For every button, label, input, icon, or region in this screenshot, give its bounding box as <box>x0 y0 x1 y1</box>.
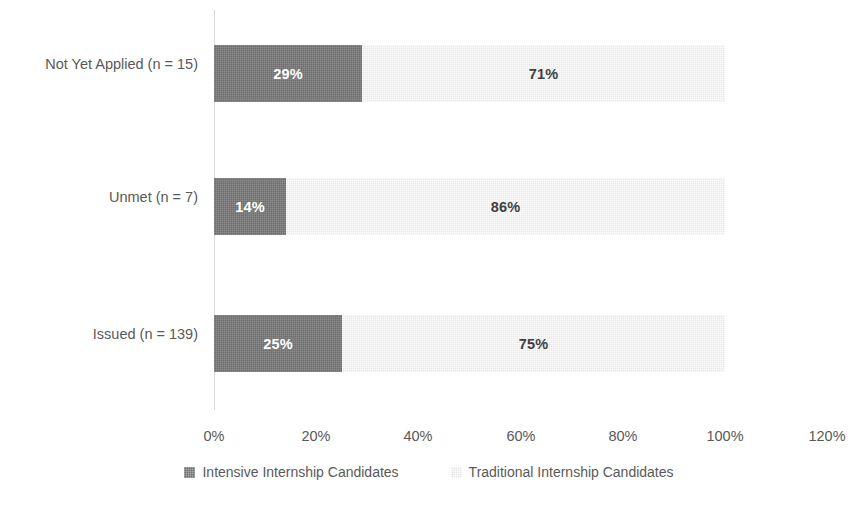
x-tick-60: 60% <box>481 428 561 444</box>
x-tick-120: 120% <box>787 428 858 444</box>
y-axis-label-issued: Issued (n = 139) <box>0 326 198 342</box>
bar-value-label-traditional: 71% <box>362 45 725 102</box>
x-tick-40: 40% <box>378 428 458 444</box>
bar-segment-traditional[interactable]: 86% <box>286 178 725 235</box>
legend-swatch-icon <box>451 467 462 478</box>
bar-segment-intensive[interactable]: 29% <box>214 45 362 102</box>
y-axis-label-unmet: Unmet (n = 7) <box>0 189 198 205</box>
stacked-bar-chart: Not Yet Applied (n = 15) Unmet (n = 7) I… <box>0 0 858 510</box>
legend-label: Intensive Internship Candidates <box>202 464 398 480</box>
x-tick-20: 20% <box>276 428 356 444</box>
bar-value-label-intensive: 25% <box>214 315 342 372</box>
y-axis-label-not-yet-applied: Not Yet Applied (n = 15) <box>0 56 198 72</box>
bar-value-label-intensive: 29% <box>214 45 362 102</box>
bar-segment-traditional[interactable]: 75% <box>342 315 725 372</box>
bar-segment-traditional[interactable]: 71% <box>362 45 725 102</box>
legend-item-traditional[interactable]: Traditional Internship Candidates <box>451 464 674 480</box>
x-tick-100: 100% <box>685 428 765 444</box>
bar-value-label-traditional: 86% <box>286 178 725 235</box>
x-tick-80: 80% <box>583 428 663 444</box>
legend-swatch-icon <box>184 467 195 478</box>
bar-value-label-traditional: 75% <box>342 315 725 372</box>
x-tick-0: 0% <box>174 428 254 444</box>
bar-value-label-intensive: 14% <box>214 178 286 235</box>
plot-area: 29% 71% 14% 86% 25% 75% 0% <box>214 10 826 410</box>
bar-segment-intensive[interactable]: 25% <box>214 315 342 372</box>
legend-label: Traditional Internship Candidates <box>469 464 674 480</box>
bar-segment-intensive[interactable]: 14% <box>214 178 286 235</box>
chart-legend: Intensive Internship Candidates Traditio… <box>0 464 858 480</box>
legend-item-intensive[interactable]: Intensive Internship Candidates <box>184 464 398 480</box>
